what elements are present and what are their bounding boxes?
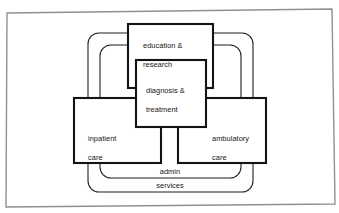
diagram-canvas: education & research diagnosis & treatme…: [0, 0, 339, 213]
box-diagnosis-treatment[interactable]: [136, 60, 206, 127]
diagram-svg: [0, 0, 339, 213]
